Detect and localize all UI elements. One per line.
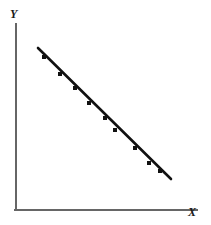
data-series-group [38,48,171,179]
data-point-marker [133,146,137,150]
data-line [38,48,171,179]
x-axis-label: X [188,206,196,218]
data-point-marker [113,128,117,132]
chart-figure: Y X [0,0,211,225]
y-axis-label: Y [10,8,17,20]
data-point-marker [158,169,162,173]
data-point-marker [42,55,46,59]
data-point-marker [147,161,151,165]
data-point-marker [58,72,62,76]
data-point-markers [42,55,162,173]
data-point-marker [103,116,107,120]
data-point-marker [87,101,91,105]
chart-canvas [0,0,211,225]
data-point-marker [73,86,77,90]
